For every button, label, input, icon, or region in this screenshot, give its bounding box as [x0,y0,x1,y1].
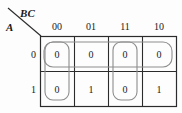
cell-r0-c00: 0 [40,50,74,60]
karnaugh-map: BC A 00 01 11 10 0 1 0 0 0 0 0 1 0 1 [0,0,182,113]
col-header-11: 11 [108,22,142,32]
col-header-00: 00 [40,22,74,32]
cell-r1-c11: 0 [108,85,142,95]
cell-r0-c11: 0 [108,50,142,60]
row-header-0: 0 [22,50,36,60]
cell-r0-c10: 0 [142,50,176,60]
cell-r1-c00: 0 [40,85,74,95]
row-variable-label: A [6,22,14,33]
row-header-1: 1 [22,85,36,95]
col-header-10: 10 [142,22,176,32]
col-header-01: 01 [74,22,108,32]
cell-r0-c01: 0 [74,50,108,60]
cell-r1-c10: 1 [142,85,176,95]
column-variable-label: BC [20,8,35,19]
cell-r1-c01: 1 [74,85,108,95]
